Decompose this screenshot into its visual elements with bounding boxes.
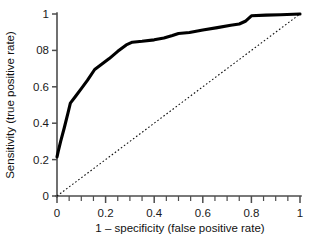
y-tick-label-5: 1 <box>43 8 49 20</box>
y-tick-label-4: 08 <box>36 44 49 56</box>
y-axis-title: Sensitivity (true positive rate) <box>4 31 16 179</box>
x-tick-label-3: 0.6 <box>195 207 211 219</box>
x-tick-label-5: 1 <box>297 207 303 219</box>
x-tick-label-1: 0.2 <box>98 207 114 219</box>
x-tick-label-0: 0 <box>54 207 60 219</box>
y-tick-label-0: 0 <box>43 190 49 202</box>
y-axis-tick-labels: 0 0.2 0.4 0.6 08 1 <box>33 8 50 202</box>
chance-reference-line <box>57 14 300 196</box>
roc-chart-svg: 0 0.2 0.4 0.6 08 1 <box>0 0 318 241</box>
y-tick-label-1: 0.2 <box>33 154 49 166</box>
x-axis-tick-labels: 0 0.2 0.4 0.6 0.8 1 <box>54 207 303 219</box>
x-tick-label-2: 0.4 <box>146 207 163 219</box>
y-tick-label-3: 0.6 <box>33 81 49 93</box>
roc-chart-figure: 0 0.2 0.4 0.6 08 1 <box>0 0 318 241</box>
y-tick-label-2: 0.4 <box>33 117 50 129</box>
x-tick-label-4: 0.8 <box>243 207 259 219</box>
roc-curve-line <box>57 14 300 157</box>
x-axis-title: 1 – specificity (false positive rate) <box>95 222 265 234</box>
